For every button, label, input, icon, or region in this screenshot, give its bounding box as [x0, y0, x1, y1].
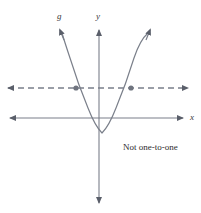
y-axis-label: y	[96, 12, 100, 21]
caption-not-one-to-one: Not one-to-one	[123, 143, 178, 152]
graph-canvas	[0, 0, 201, 213]
intersection-point-left	[73, 85, 78, 90]
x-axis-label: x	[190, 113, 194, 122]
parabola-left-arrow	[60, 30, 64, 40]
curve-label-g: g	[57, 12, 62, 21]
intersection-point-right	[128, 85, 133, 90]
figure-not-one-to-one: g y x Not one-to-one	[0, 0, 201, 213]
